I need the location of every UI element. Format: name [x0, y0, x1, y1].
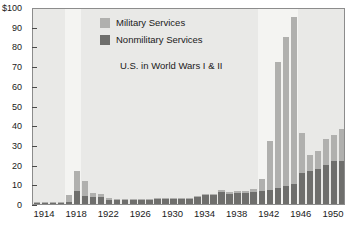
x-tick-label: 1946 — [290, 209, 311, 219]
bar-segment-nonmilitary — [194, 197, 200, 204]
bar-group — [66, 195, 72, 204]
x-axis: 1914191819221926193019341938194219461950 — [0, 209, 355, 229]
bar-segment-nonmilitary — [138, 200, 144, 204]
bar-segment-nonmilitary — [307, 171, 313, 204]
bar-group — [250, 189, 256, 204]
bar-group — [242, 191, 248, 204]
bar-segment-nonmilitary — [218, 192, 224, 204]
bar-segment-nonmilitary — [250, 192, 256, 204]
y-tick-label: 40 — [12, 122, 22, 131]
y-tick-label: 50 — [12, 102, 22, 111]
bar-segment-military — [275, 62, 281, 188]
bar-segment-nonmilitary — [234, 193, 240, 204]
war-annotation: U.S. in World Wars I & II — [120, 60, 222, 71]
y-tick-label: 20 — [12, 161, 22, 170]
x-tick-label: 1922 — [98, 209, 119, 219]
bar-segment-military — [82, 181, 88, 196]
bar-segment-nonmilitary — [315, 169, 321, 204]
x-tick-label: 1914 — [33, 209, 54, 219]
bar-group — [138, 199, 144, 204]
y-tick-mark — [32, 47, 37, 48]
bar-group — [186, 198, 192, 204]
bar-segment-military — [283, 37, 289, 187]
bar-group — [122, 199, 128, 205]
bar-segment-nonmilitary — [226, 194, 232, 204]
bar-group — [154, 198, 160, 204]
bar-segment-nonmilitary — [66, 202, 72, 204]
bar-group — [178, 198, 184, 204]
bar-group — [210, 194, 216, 204]
bar-segment-military — [307, 155, 313, 171]
bar-segment-nonmilitary — [98, 197, 104, 204]
bar-group — [82, 181, 88, 204]
bar-segment-nonmilitary — [259, 191, 265, 204]
legend-swatch-military-icon — [100, 18, 110, 28]
x-tick-label: 1938 — [226, 209, 247, 219]
y-tick-label: 60 — [12, 82, 22, 91]
bar-segment-nonmilitary — [82, 196, 88, 204]
bar-segment-nonmilitary — [242, 193, 248, 204]
x-tick-label: 1930 — [162, 209, 183, 219]
bar-segment-nonmilitary — [210, 195, 216, 204]
bar-segment-military — [74, 171, 80, 191]
bar-segment-nonmilitary — [58, 203, 64, 204]
bar-group — [90, 193, 96, 204]
bar-group — [146, 199, 152, 205]
bar-segment-nonmilitary — [162, 199, 168, 204]
legend-swatch-nonmilitary-icon — [100, 35, 110, 45]
x-tick-label: 1942 — [258, 209, 279, 219]
bar-segment-nonmilitary — [42, 203, 48, 204]
legend-label-nonmilitary: Nonmilitary Services — [116, 35, 203, 45]
bar-segment-military — [259, 179, 265, 191]
legend-item-military: Military Services — [100, 18, 203, 28]
bar-group — [226, 192, 232, 204]
bar-group — [234, 191, 240, 204]
bar-segment-military — [339, 129, 345, 161]
bar-group — [339, 129, 345, 204]
bar-segment-nonmilitary — [130, 200, 136, 204]
bar-segment-nonmilitary — [186, 199, 192, 204]
bar-group — [162, 198, 168, 204]
bar-segment-nonmilitary — [90, 197, 96, 204]
y-tick-label: 80 — [12, 43, 22, 52]
bar-segment-military — [331, 135, 337, 161]
y-tick-label: 10 — [12, 181, 22, 190]
y-tick-label: $100 — [2, 4, 22, 13]
bar-group — [42, 202, 48, 204]
bar-group — [74, 171, 80, 204]
bar-segment-nonmilitary — [291, 184, 297, 204]
legend-item-nonmilitary: Nonmilitary Services — [100, 35, 203, 45]
bar-chart: 0102030405060708090$100 1914191819221926… — [0, 0, 355, 244]
bar-segment-nonmilitary — [50, 203, 56, 204]
y-axis: 0102030405060708090$100 — [0, 0, 30, 213]
bar-segment-nonmilitary — [170, 199, 176, 204]
bar-segment-military — [267, 141, 273, 189]
bar-segment-military — [315, 151, 321, 169]
y-tick-mark — [32, 126, 37, 127]
bar-group — [50, 202, 56, 204]
y-tick-mark — [32, 107, 37, 108]
bar-segment-nonmilitary — [146, 200, 152, 204]
y-tick-mark — [32, 146, 37, 147]
bar-group — [315, 151, 321, 204]
bar-group — [58, 202, 64, 204]
y-tick-label: 30 — [12, 141, 22, 150]
x-tick-label: 1926 — [130, 209, 151, 219]
bar-segment-military — [299, 133, 305, 173]
x-tick-label: 1950 — [322, 209, 343, 219]
bar-group — [299, 133, 305, 204]
bar-group — [106, 198, 112, 204]
bar-segment-nonmilitary — [339, 161, 345, 204]
bar-group — [130, 199, 136, 204]
bar-group — [267, 141, 273, 204]
bar-segment-nonmilitary — [154, 199, 160, 204]
y-tick-mark — [32, 67, 37, 68]
bar-segment-nonmilitary — [122, 200, 128, 204]
bar-group — [331, 135, 337, 204]
bar-group — [98, 194, 104, 204]
bar-segment-nonmilitary — [202, 195, 208, 204]
bar-group — [323, 139, 329, 204]
y-tick-label: 70 — [12, 63, 22, 72]
bar-segment-nonmilitary — [331, 161, 337, 204]
bar-group — [202, 194, 208, 204]
